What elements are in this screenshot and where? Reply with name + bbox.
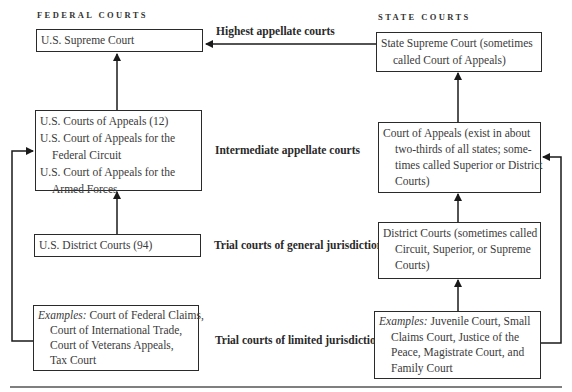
box-state-supreme-court: State Supreme Court (sometimes called Co… bbox=[376, 32, 542, 72]
box-text: times called Superior or District bbox=[383, 157, 536, 173]
box-state-limited-examples: Examples: Juvenile Court, Small Claims C… bbox=[374, 311, 541, 379]
box-text: Armed Forces bbox=[40, 181, 197, 198]
box-text: U.S. Court of Appeals for the bbox=[40, 164, 197, 181]
box-text: Tax Court bbox=[38, 353, 194, 368]
arrow-state-limited-to-appeals bbox=[540, 157, 561, 343]
box-text: Courts) bbox=[383, 173, 536, 189]
box-text: State Supreme Court (sometimes bbox=[381, 35, 537, 52]
box-us-courts-of-appeals: U.S. Courts of Appeals (12) U.S. Court o… bbox=[35, 110, 202, 191]
box-text: Federal Circuit bbox=[40, 147, 197, 164]
box-text: Court of Veterans Appeals, bbox=[38, 338, 194, 353]
level-label-trial-limited: Trial courts of limited jurisdiction bbox=[215, 334, 382, 346]
box-text: called Court of Appeals) bbox=[381, 52, 537, 69]
box-text: Court of International Trade, bbox=[38, 323, 194, 338]
level-label-highest: Highest appellate courts bbox=[216, 25, 335, 37]
box-text: Peace, Magistrate Court, and bbox=[379, 345, 536, 361]
box-text: Court of Federal Claims, bbox=[87, 309, 204, 321]
arrow-fed-limited-to-appeals bbox=[12, 151, 33, 341]
state-courts-header: STATE COURTS bbox=[378, 12, 471, 22]
box-us-district-courts: U.S. District Courts (94) bbox=[34, 234, 201, 257]
examples-prefix: Examples: bbox=[379, 315, 428, 327]
box-us-supreme-court: U.S. Supreme Court bbox=[36, 29, 203, 52]
box-text: Court of Appeals (exist in about bbox=[383, 125, 536, 141]
level-label-intermediate: Intermediate appellate courts bbox=[215, 144, 360, 156]
box-text: Circuit, Superior, or Supreme bbox=[383, 241, 536, 257]
box-text: Juvenile Court, Small bbox=[428, 315, 531, 327]
box-text: Claims Court, Justice of the bbox=[379, 330, 536, 346]
box-text: two-thirds of all states; some- bbox=[383, 141, 536, 157]
box-text: Courts) bbox=[383, 257, 536, 273]
box-text: U.S. Court of Appeals for the bbox=[40, 130, 197, 147]
box-text: U.S. District Courts (94) bbox=[39, 237, 196, 254]
box-text: U.S. Supreme Court bbox=[41, 32, 198, 49]
box-state-district-courts: District Courts (sometimes called Circui… bbox=[378, 222, 541, 279]
examples-prefix: Examples: bbox=[38, 309, 87, 321]
federal-courts-header: FEDERAL COURTS bbox=[37, 10, 148, 20]
box-federal-limited-examples: Examples: Court of Federal Claims, Court… bbox=[33, 305, 199, 371]
box-text: U.S. Courts of Appeals (12) bbox=[40, 113, 197, 130]
level-label-trial-general: Trial courts of general jurisdiction bbox=[214, 239, 383, 251]
box-text: Family Court bbox=[379, 361, 536, 377]
box-text: District Courts (sometimes called bbox=[383, 225, 536, 241]
box-state-court-of-appeals: Court of Appeals (exist in about two-thi… bbox=[378, 122, 541, 193]
